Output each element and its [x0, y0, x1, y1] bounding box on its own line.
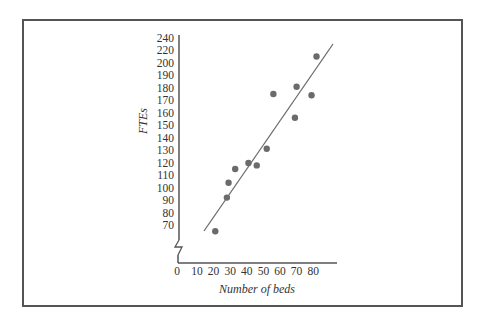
y-tick-label: 200	[157, 57, 175, 69]
y-tick-label: 90	[163, 194, 175, 206]
regression-line-path	[204, 44, 333, 231]
y-tick-label: 140	[157, 132, 175, 144]
y-tick-label: 170	[157, 94, 175, 106]
y-tick-label: 160	[157, 107, 175, 119]
x-tick-label: 80	[307, 265, 319, 277]
data-point	[313, 53, 319, 59]
x-tick-label: 70	[291, 265, 303, 277]
x-axis-label: Number of beds	[218, 282, 295, 296]
x-tick-label: 30	[224, 265, 236, 277]
x-tick-label: 10	[191, 265, 203, 277]
x-tick-label: 20	[208, 265, 220, 277]
x-tick-label: 60	[274, 265, 286, 277]
x-tick-label: 40	[241, 265, 253, 277]
x-tick-labels: 01020304050607080	[174, 265, 319, 277]
y-tick-label: 100	[157, 182, 175, 194]
y-axis-label: FTEs	[136, 108, 150, 135]
data-point	[224, 194, 230, 200]
y-tick-label: 110	[157, 169, 174, 181]
data-point	[270, 91, 276, 97]
scatter-chart: 7080901001101201301401501601701801902002…	[0, 0, 494, 323]
data-point	[292, 115, 298, 121]
y-tick-label: 220	[157, 44, 175, 56]
data-point	[245, 160, 251, 166]
data-point	[232, 166, 238, 172]
data-point	[293, 84, 299, 90]
y-tick-label: 120	[157, 157, 175, 169]
data-point	[308, 92, 314, 98]
data-point	[254, 162, 260, 168]
data-points	[212, 53, 320, 234]
data-point	[264, 146, 270, 152]
y-tick-label: 130	[157, 144, 175, 156]
axes	[175, 35, 337, 263]
y-tick-label: 80	[163, 207, 175, 219]
y-tick-labels: 7080901001101201301401501601701801902002…	[157, 32, 175, 231]
y-tick-label: 190	[157, 69, 175, 81]
y-tick-label: 240	[157, 32, 175, 44]
x-tick-label: 0	[174, 265, 180, 277]
regression-line	[204, 44, 333, 231]
data-point	[212, 228, 218, 234]
y-axis-break-icon	[175, 240, 182, 255]
y-tick-label: 150	[157, 119, 175, 131]
x-tick-label: 50	[258, 265, 270, 277]
y-tick-label: 180	[157, 82, 175, 94]
data-point	[225, 180, 231, 186]
y-tick-label: 70	[163, 219, 175, 231]
